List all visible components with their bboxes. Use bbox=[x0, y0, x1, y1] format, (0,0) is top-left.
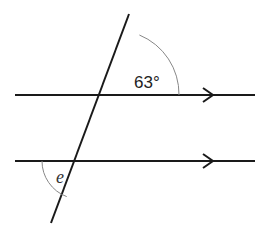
transversal-line bbox=[51, 14, 129, 223]
angle-label-63: 63° bbox=[134, 73, 160, 92]
diagram-svg: 63° e bbox=[0, 0, 262, 235]
parallel-lines-diagram: 63° e bbox=[0, 0, 262, 235]
angle-label-e: e bbox=[56, 167, 64, 187]
